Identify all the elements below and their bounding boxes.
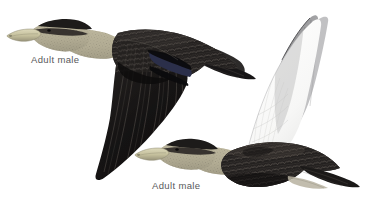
illustration-plate: Adult male Adult male	[0, 0, 373, 207]
lower-duck-eye	[175, 148, 178, 151]
caption-lower-bird: Adult male	[152, 181, 200, 191]
caption-upper-bird: Adult male	[31, 55, 79, 65]
upper-duck-eye	[47, 29, 50, 32]
duck-flight-artwork	[0, 0, 373, 207]
